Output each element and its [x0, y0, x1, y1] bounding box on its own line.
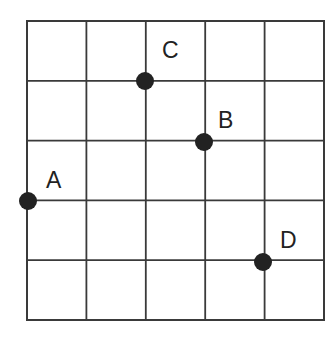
point-b-label: B [218, 107, 233, 133]
point-c-label: C [162, 37, 179, 63]
point-a-dot [19, 192, 37, 210]
point-a-label: A [46, 167, 62, 193]
point-d-label: D [280, 227, 297, 253]
point-c-dot [136, 72, 154, 90]
point-b-dot [195, 133, 213, 151]
point-d-dot [254, 253, 272, 271]
grid-diagram: A B C D [0, 0, 335, 343]
